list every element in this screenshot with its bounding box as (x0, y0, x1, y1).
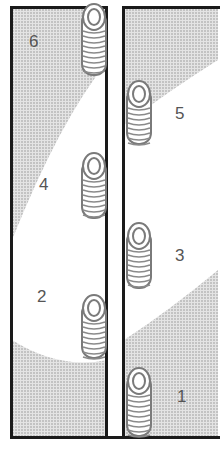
coin-stack-icon (127, 223, 151, 288)
label-1: 1 (177, 387, 186, 407)
coin-stack-icon (82, 4, 106, 75)
coin-stack-icon (82, 153, 106, 218)
label-2: 2 (37, 287, 46, 307)
label-6: 6 (29, 32, 38, 52)
label-4: 4 (39, 175, 48, 195)
coin-stack-icon (82, 295, 106, 359)
coin-stack-icon (127, 368, 151, 437)
coin-stack-icon (127, 81, 151, 145)
label-3: 3 (175, 246, 184, 266)
baseline (10, 436, 220, 439)
label-5: 5 (175, 104, 184, 124)
coin-diagram (0, 0, 220, 456)
